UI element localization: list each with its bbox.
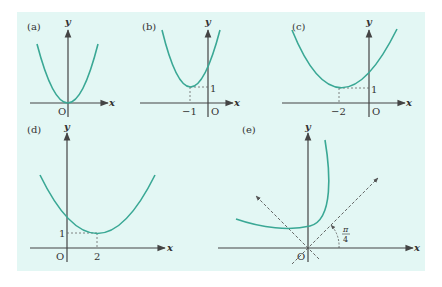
y-axis-label: y [204,16,212,27]
vertex-x-label: −1 [182,106,197,117]
angle-label-denominator: 4 [343,235,348,244]
x-axis-label: x [233,97,241,108]
vertex-x-label: 2 [94,251,100,262]
angle-label-numerator: π [342,225,349,234]
vertex-y-label: 1 [210,83,216,94]
origin-label: O [58,106,66,117]
figure-background [17,12,425,271]
panel-label-c: (c) [292,21,306,32]
x-axis-label: x [405,97,413,108]
vertex-y-label: 1 [59,228,65,239]
figure: (a) x y O (b) x y O −1 1 (c) x y O −2 1 … [0,0,442,287]
panel-label-a: (a) [27,21,41,32]
panel-label-d: (d) [27,124,41,135]
x-axis-label: x [413,242,421,253]
x-axis-label: x [166,242,174,253]
origin-label: O [56,251,64,262]
y-axis-label: y [64,16,72,27]
vertex-x-label: −2 [331,106,346,117]
y-axis-label: y [63,121,71,132]
y-axis-label: y [304,121,312,132]
panel-label-b: (b) [142,21,156,32]
vertex-y-label: 1 [371,84,377,95]
origin-label: O [211,106,219,117]
y-axis-label: y [365,16,373,27]
origin-label: O [372,106,380,117]
x-axis-label: x [108,97,116,108]
panel-label-e: (e) [242,124,256,135]
